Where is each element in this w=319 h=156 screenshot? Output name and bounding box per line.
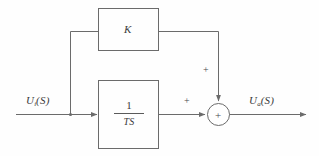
integrator-numerator: 1 [113,99,145,111]
block-diagram-canvas: Ui(S) Ua(S) K 1 TS + + + [0,0,319,156]
diagram-vector-layer [0,0,319,156]
input-label-base: U [26,94,34,106]
summing-junction-operator: + [215,109,221,121]
input-signal-label: Ui(S) [26,95,50,108]
fraction-bar [114,113,144,114]
summing-left-plus-sign: + [184,96,190,106]
summing-top-plus-sign: + [203,65,209,75]
integrator-transfer-function: 1 TS [113,99,145,128]
integrator-denominator: TS [113,116,145,128]
gain-block-label: K [124,24,131,35]
output-signal-label: Ua(S) [249,95,274,108]
output-label-arg: (S) [261,94,274,106]
output-label-base: U [249,94,257,106]
input-label-arg: (S) [36,94,49,106]
